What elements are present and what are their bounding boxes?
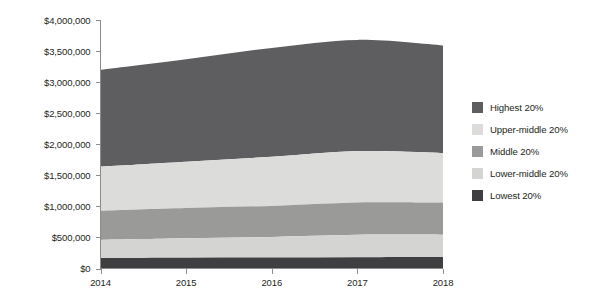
legend-item-label: Middle 20% [490, 146, 539, 157]
legend-item[interactable]: Lower-middle 20% [472, 166, 600, 180]
legend-item[interactable]: Highest 20% [472, 100, 600, 114]
legend-item[interactable]: Lowest 20% [472, 188, 600, 202]
legend-swatch-icon [472, 124, 483, 135]
legend-swatch-icon [472, 168, 483, 179]
legend-swatch-icon [472, 146, 483, 157]
x-tick-label: 2018 [433, 277, 454, 288]
y-axis-tick-labels: $0$500,000$1,000,000$1,500,000$2,000,000… [44, 15, 91, 275]
y-tick-label: $2,000,000 [44, 139, 91, 150]
x-tick-label: 2016 [261, 277, 282, 288]
legend-swatch-icon [472, 190, 483, 201]
y-tick-label: $2,500,000 [44, 108, 91, 119]
legend-item-label: Upper-middle 20% [490, 124, 568, 135]
legend-item[interactable]: Middle 20% [472, 144, 600, 158]
y-tick-label: $0 [80, 263, 90, 274]
stacked-area-chart: $0$500,000$1,000,000$1,500,000$2,000,000… [0, 0, 600, 308]
legend-item-label: Lowest 20% [490, 190, 541, 201]
legend-swatch-icon [472, 102, 483, 113]
x-axis-ticks [101, 269, 444, 274]
x-tick-label: 2015 [176, 277, 197, 288]
y-tick-label: $3,000,000 [44, 77, 91, 88]
legend-item-label: Highest 20% [490, 102, 543, 113]
x-tick-label: 2014 [90, 277, 111, 288]
x-axis-tick-labels: 20142015201620172018 [90, 277, 453, 288]
legend-item[interactable]: Upper-middle 20% [472, 122, 600, 136]
y-tick-label: $1,000,000 [44, 201, 91, 212]
y-axis-ticks [96, 21, 101, 270]
area-highest-20 [101, 40, 444, 167]
legend-item-label: Lower-middle 20% [490, 168, 568, 179]
y-tick-label: $500,000 [52, 232, 91, 243]
x-tick-label: 2017 [347, 277, 368, 288]
y-tick-label: $3,500,000 [44, 46, 91, 57]
y-tick-label: $1,500,000 [44, 170, 91, 181]
chart-legend: Highest 20%Upper-middle 20%Middle 20%Low… [472, 100, 600, 210]
area-series-group [101, 40, 444, 269]
area-lowest-20 [101, 257, 444, 268]
y-tick-label: $4,000,000 [44, 15, 91, 26]
